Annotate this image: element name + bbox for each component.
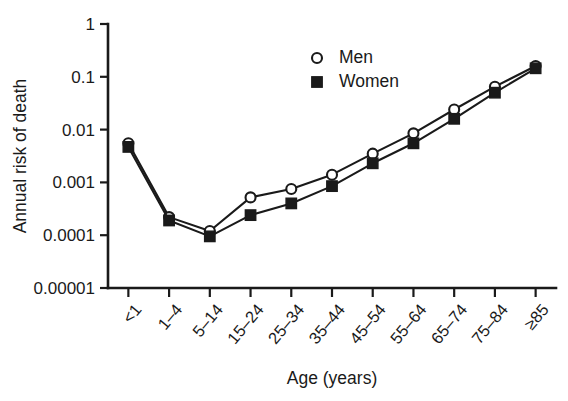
legend-marker-filled-square-icon: [312, 77, 322, 87]
data-point-men: [368, 149, 378, 159]
data-point-women: [286, 198, 296, 208]
legend-label: Women: [339, 71, 399, 91]
legend-label: Men: [339, 47, 373, 67]
data-point-men: [246, 192, 256, 202]
data-point-men: [327, 170, 337, 180]
data-point-women: [245, 210, 255, 220]
data-point-women: [490, 87, 500, 97]
y-axis-tick-label: 0.0001: [43, 226, 95, 245]
y-axis-tick-label: 1: [86, 15, 95, 34]
chart-figure: 10.10.010.0010.00010.00001 <11–45–1415–2…: [0, 0, 568, 401]
data-point-women: [530, 63, 540, 73]
y-axis-title: Annual risk of death: [10, 79, 30, 234]
data-point-women: [408, 138, 418, 148]
data-point-women: [123, 142, 133, 152]
data-point-women: [449, 114, 459, 124]
y-axis-tick-label: 0.01: [62, 121, 95, 140]
y-axis-tick-label: 0.1: [71, 68, 95, 87]
x-axis-title: Age (years): [287, 368, 377, 388]
data-point-women: [327, 181, 337, 191]
y-axis-tick-label: 0.00001: [34, 279, 95, 298]
data-point-men: [286, 184, 296, 194]
data-point-women: [164, 215, 174, 225]
annual-risk-of-death-line-chart: 10.10.010.0010.00010.00001 <11–45–1415–2…: [0, 0, 568, 401]
y-axis-tick-label: 0.001: [52, 173, 95, 192]
legend-marker-open-circle-icon: [312, 53, 322, 63]
data-point-women: [205, 231, 215, 241]
data-point-men: [408, 128, 418, 138]
data-point-women: [368, 158, 378, 168]
